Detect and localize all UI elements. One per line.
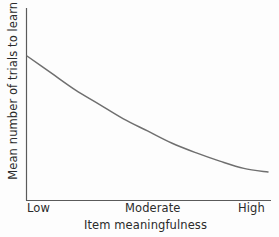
chart-figure: Low Moderate High Item meaningfulness Me… (0, 0, 279, 237)
data-series-line (27, 56, 268, 172)
y-axis-title: Mean number of trials to learn (8, 20, 20, 180)
x-axis-title-text: Item meaningfulness (84, 218, 207, 232)
x-tick-label-low: Low (27, 203, 50, 215)
x-axis-title: Item meaningfulness (0, 220, 279, 232)
x-tick-label-high: High (238, 203, 265, 215)
x-tick-label-moderate: Moderate (125, 203, 181, 215)
